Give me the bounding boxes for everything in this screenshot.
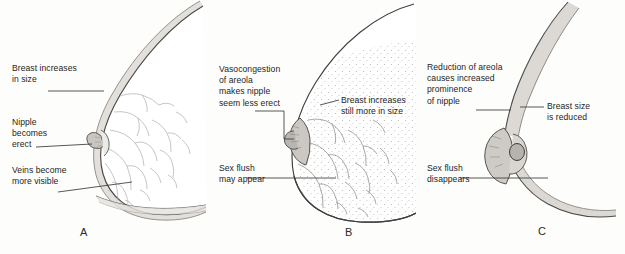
- panel-b: Vasocongestion of areola makes nipple se…: [208, 0, 416, 254]
- label-vasocongestion-areola: Vasocongestion of areola makes nipple se…: [219, 64, 280, 109]
- panel-letter-c: C: [538, 225, 546, 237]
- panel-letter-b: B: [345, 226, 353, 238]
- label-breast-increases: Breast increases in size: [12, 63, 77, 85]
- panel-c: Reduction of areola causes increased pro…: [416, 0, 625, 254]
- label-areola-reduction: Reduction of areola causes increased pro…: [427, 62, 502, 107]
- label-breast-increases-more: Breast increases still more in size: [341, 95, 406, 117]
- label-veins-visible: Veins become more visible: [12, 165, 67, 187]
- label-sex-flush-appears: Sex flush may appear: [219, 163, 265, 185]
- label-sex-flush-disappears: Sex flush disappears: [427, 163, 470, 185]
- breast-response-figure: Breast increases in size Nipple becomes …: [0, 0, 625, 254]
- panel-c-illustration: [416, 0, 625, 254]
- label-breast-size-reduced: Breast size is reduced: [547, 101, 590, 123]
- panel-letter-a: A: [80, 226, 88, 238]
- label-nipple-erect: Nipple becomes erect: [12, 117, 47, 151]
- panel-a: Breast increases in size Nipple becomes …: [0, 0, 208, 254]
- panel-b-illustration: [208, 0, 416, 254]
